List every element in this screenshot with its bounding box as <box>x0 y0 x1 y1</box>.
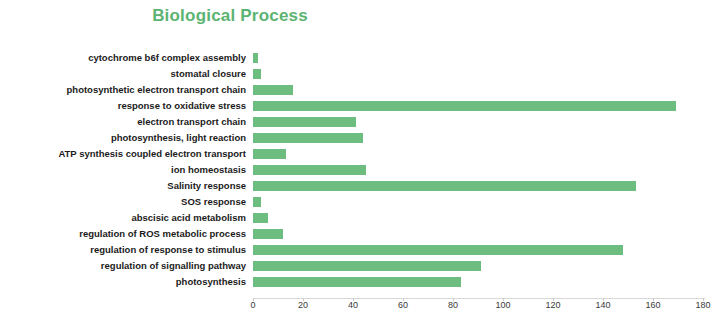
bar-track <box>253 146 713 162</box>
bar <box>253 69 261 79</box>
bar-track <box>253 242 713 258</box>
bar-track <box>253 114 713 130</box>
bar-track <box>253 210 713 226</box>
bar-track <box>253 66 713 82</box>
bar-row: abscisic acid metabolism <box>0 210 722 226</box>
bar-track <box>253 258 713 274</box>
bar-row: photosynthesis, light reaction <box>0 130 722 146</box>
bar-row: ion homeostasis <box>0 162 722 178</box>
bar <box>253 261 481 271</box>
x-tick-label: 0 <box>250 300 255 310</box>
bar <box>253 229 283 239</box>
bar <box>253 117 356 127</box>
x-tick-label: 140 <box>595 300 610 310</box>
bar <box>253 53 258 63</box>
x-tick-label: 160 <box>645 300 660 310</box>
bar-track <box>253 98 713 114</box>
bar-row: electron transport chain <box>0 114 722 130</box>
x-tick-label: 180 <box>695 300 710 310</box>
x-tick-label: 20 <box>298 300 308 310</box>
bar-category-label: photosynthesis <box>0 274 246 290</box>
bar <box>253 85 293 95</box>
plot-area: cytochrome b6f complex assemblystomatal … <box>0 50 722 298</box>
bar-track <box>253 226 713 242</box>
bar-row: SOS response <box>0 194 722 210</box>
bar <box>253 101 676 111</box>
bar-track <box>253 130 713 146</box>
x-axis-line <box>253 298 705 299</box>
x-axis-ticks: 020406080100120140160180 <box>0 300 722 318</box>
x-tick-label: 60 <box>398 300 408 310</box>
bar-track <box>253 50 713 66</box>
bar-category-label: stomatal closure <box>0 66 246 82</box>
bar-chart: Biological Process cytochrome b6f comple… <box>0 0 722 321</box>
bar-track <box>253 194 713 210</box>
x-tick-label: 100 <box>495 300 510 310</box>
bar-category-label: Salinity response <box>0 178 246 194</box>
bar-track <box>253 82 713 98</box>
bar <box>253 133 363 143</box>
bar-category-label: regulation of signalling pathway <box>0 258 246 274</box>
bar-row: ATP synthesis coupled electron transport <box>0 146 722 162</box>
bar-row: regulation of response to stimulus <box>0 242 722 258</box>
bar-track <box>253 178 713 194</box>
bar-row: photosynthetic electron transport chain <box>0 82 722 98</box>
bar-category-label: regulation of ROS metabolic process <box>0 226 246 242</box>
bar-category-label: photosynthesis, light reaction <box>0 130 246 146</box>
bar-row: regulation of signalling pathway <box>0 258 722 274</box>
bar <box>253 149 286 159</box>
bar-row: Salinity response <box>0 178 722 194</box>
bar-row: photosynthesis <box>0 274 722 290</box>
bar-track <box>253 274 713 290</box>
chart-title: Biological Process <box>0 6 460 26</box>
bar-category-label: ion homeostasis <box>0 162 246 178</box>
bar-row: cytochrome b6f complex assembly <box>0 50 722 66</box>
bar <box>253 245 623 255</box>
bar-category-label: ATP synthesis coupled electron transport <box>0 146 246 162</box>
bar-row: response to oxidative stress <box>0 98 722 114</box>
bar <box>253 181 636 191</box>
bar-row: stomatal closure <box>0 66 722 82</box>
x-tick-label: 80 <box>448 300 458 310</box>
bar <box>253 213 268 223</box>
bar <box>253 165 366 175</box>
bar-row: regulation of ROS metabolic process <box>0 226 722 242</box>
bar-category-label: regulation of response to stimulus <box>0 242 246 258</box>
bar <box>253 197 261 207</box>
bar-category-label: abscisic acid metabolism <box>0 210 246 226</box>
bar-category-label: cytochrome b6f complex assembly <box>0 50 246 66</box>
bar-category-label: SOS response <box>0 194 246 210</box>
x-tick-label: 40 <box>348 300 358 310</box>
bar-category-label: electron transport chain <box>0 114 246 130</box>
bar-category-label: photosynthetic electron transport chain <box>0 82 246 98</box>
bar-track <box>253 162 713 178</box>
x-tick-label: 120 <box>545 300 560 310</box>
bar <box>253 277 461 287</box>
bar-category-label: response to oxidative stress <box>0 98 246 114</box>
